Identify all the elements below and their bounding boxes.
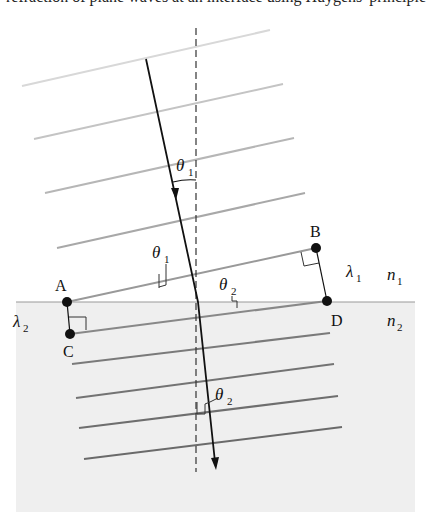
point-C bbox=[65, 329, 75, 339]
svg-text:1: 1 bbox=[164, 253, 170, 265]
label-C: C bbox=[63, 343, 74, 360]
theta1-right-angle-mark bbox=[159, 264, 166, 288]
svg-text:θ: θ bbox=[152, 243, 160, 262]
label-A: A bbox=[55, 277, 67, 294]
svg-text:2: 2 bbox=[23, 322, 29, 334]
svg-text:1: 1 bbox=[397, 275, 403, 287]
label-B: B bbox=[310, 223, 321, 240]
segment-BD bbox=[316, 248, 327, 301]
label-n1: n 1 bbox=[387, 265, 403, 287]
svg-text:θ: θ bbox=[176, 156, 184, 175]
right-angle-mark-BD bbox=[301, 252, 319, 266]
svg-text:1: 1 bbox=[188, 166, 194, 178]
label-theta1-top: θ 1 bbox=[176, 156, 194, 178]
svg-text:2: 2 bbox=[227, 395, 233, 407]
label-D: D bbox=[331, 312, 343, 329]
point-D bbox=[322, 296, 332, 306]
svg-text:n: n bbox=[387, 311, 396, 330]
svg-text:2: 2 bbox=[397, 321, 403, 333]
svg-text:θ: θ bbox=[219, 275, 227, 294]
theta1-angle-arc bbox=[173, 180, 196, 182]
label-lambda1: λ 1 bbox=[345, 262, 362, 284]
refraction-diagram: A B C D θ 1 θ 1 θ 2 θ 2 λ 1 λ 2 n 1 n 2 bbox=[0, 0, 432, 518]
svg-text:θ: θ bbox=[215, 385, 223, 404]
svg-text:1: 1 bbox=[356, 272, 362, 284]
label-theta2-interface: θ 2 bbox=[219, 275, 237, 297]
svg-text:λ: λ bbox=[345, 262, 353, 281]
label-theta1-interface: θ 1 bbox=[152, 243, 170, 265]
svg-text:2: 2 bbox=[231, 285, 237, 297]
point-A bbox=[62, 297, 72, 307]
point-B bbox=[311, 243, 321, 253]
svg-text:λ: λ bbox=[12, 312, 20, 331]
svg-text:n: n bbox=[387, 265, 396, 284]
